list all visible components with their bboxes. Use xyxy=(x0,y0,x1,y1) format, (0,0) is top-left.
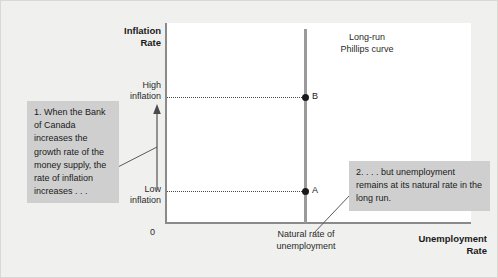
natural-rate-line1: Natural rate of xyxy=(277,229,334,239)
guide-line-low-inflation xyxy=(167,191,306,192)
x-axis-title-line1: Unemployment xyxy=(418,233,487,244)
origin-label: 0 xyxy=(150,227,155,237)
y-tick-high-line1: High xyxy=(142,80,161,90)
y-tick-label-high: High inflation xyxy=(99,80,161,101)
point-a-marker xyxy=(302,188,309,195)
x-axis-title-line2: Rate xyxy=(466,245,487,256)
x-axis-title: Unemployment Rate xyxy=(377,233,487,256)
point-b-label: B xyxy=(312,91,318,101)
x-tick-label-natural-rate: Natural rate of unemployment xyxy=(246,229,366,252)
y-axis-title: Inflation Rate xyxy=(93,25,161,48)
callout-natural-rate: 2. . . . but unemployment remains at its… xyxy=(349,161,490,211)
inflation-direction-arrow-icon xyxy=(151,104,163,190)
y-axis-title-line1: Inflation xyxy=(124,25,161,36)
y-tick-low-line2: inflation xyxy=(130,195,161,205)
lrpc-label-line1: Long-run xyxy=(349,32,385,42)
guide-line-high-inflation xyxy=(167,97,306,98)
phillips-curve-figure: Inflation Rate Unemployment Rate High in… xyxy=(0,0,498,278)
x-axis-line xyxy=(165,222,471,224)
point-b-marker xyxy=(302,94,309,101)
point-a-label: A xyxy=(312,185,318,195)
callout-money-supply: 1. When the Bank of Canada increases the… xyxy=(27,101,119,203)
y-tick-high-line2: inflation xyxy=(130,91,161,101)
long-run-phillips-curve-label: Long-run Phillips curve xyxy=(307,31,427,55)
natural-rate-line2: unemployment xyxy=(276,241,335,251)
lrpc-label-line2: Phillips curve xyxy=(340,44,393,54)
y-axis-title-line2: Rate xyxy=(140,37,161,48)
y-axis-line xyxy=(165,23,167,224)
